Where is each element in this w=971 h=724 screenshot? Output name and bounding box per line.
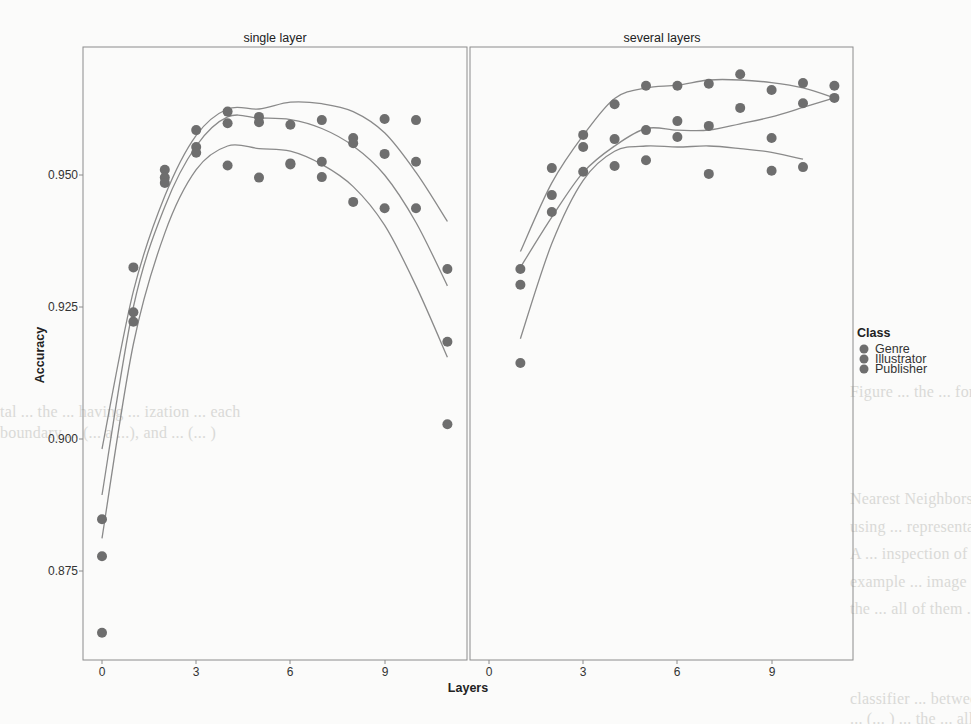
data-point — [704, 121, 714, 131]
data-point — [610, 99, 620, 109]
data-point — [223, 118, 233, 128]
points-single-layer — [97, 107, 452, 638]
panel-frame-several-layers — [470, 47, 853, 660]
data-point — [411, 157, 421, 167]
data-point — [641, 125, 651, 135]
data-point — [767, 85, 777, 95]
x-tick-label: 0 — [486, 665, 493, 679]
data-point — [578, 130, 588, 140]
data-point — [829, 93, 839, 103]
trend-line — [102, 102, 447, 449]
data-point — [610, 161, 620, 171]
data-point — [515, 358, 525, 368]
x-tick-label: 6 — [287, 665, 294, 679]
data-point — [380, 203, 390, 213]
data-point — [547, 163, 557, 173]
legend-marker-publisher — [860, 365, 869, 374]
data-point — [254, 173, 264, 183]
data-point — [798, 162, 808, 172]
data-point — [411, 203, 421, 213]
y-tick-label: 0.900 — [48, 432, 78, 446]
y-axis: 0.950 0.925 0.900 0.875 — [48, 168, 83, 578]
data-point — [317, 115, 327, 125]
data-point — [547, 207, 557, 217]
panel-frame-single-layer — [83, 47, 467, 660]
x-tick-label: 9 — [382, 665, 389, 679]
trend-line — [102, 115, 447, 495]
trend-line — [520, 146, 803, 339]
x-tick-label: 3 — [193, 665, 200, 679]
data-point — [767, 166, 777, 176]
faceted-scatter-chart: single layer several layers 0.950 0.925 … — [0, 0, 971, 724]
data-point — [767, 133, 777, 143]
data-point — [128, 317, 138, 327]
x-tick-label: 0 — [99, 665, 106, 679]
data-point — [829, 81, 839, 91]
data-point — [97, 514, 107, 524]
x-tick-label: 9 — [769, 665, 776, 679]
legend-label-publisher: Publisher — [875, 362, 927, 376]
data-point — [191, 125, 201, 135]
data-point — [128, 307, 138, 317]
x-tick-label: 6 — [674, 665, 681, 679]
data-point — [442, 337, 452, 347]
x-axis-several-layers: 0 3 6 9 — [486, 660, 776, 679]
x-axis-title: Layers — [448, 681, 488, 695]
x-tick-label: 3 — [580, 665, 587, 679]
data-point — [128, 262, 138, 272]
data-point — [442, 419, 452, 429]
data-point — [610, 134, 620, 144]
data-point — [348, 138, 358, 148]
data-point — [515, 264, 525, 274]
data-point — [578, 167, 588, 177]
data-point — [641, 155, 651, 165]
data-point — [223, 107, 233, 117]
legend-marker-illustrator — [860, 355, 869, 364]
y-tick-label: 0.875 — [48, 564, 78, 578]
data-point — [641, 81, 651, 91]
trend-lines-single-layer — [102, 102, 447, 539]
data-point — [578, 142, 588, 152]
data-point — [798, 98, 808, 108]
y-tick-label: 0.950 — [48, 168, 78, 182]
data-point — [547, 190, 557, 200]
data-point — [735, 103, 745, 113]
y-axis-title: Accuracy — [33, 327, 47, 383]
trend-line — [520, 79, 834, 251]
data-point — [442, 264, 452, 274]
data-point — [254, 117, 264, 127]
data-point — [317, 157, 327, 167]
data-point — [317, 172, 327, 182]
legend: Class Genre Illustrator Publisher — [857, 326, 927, 376]
data-point — [285, 120, 295, 130]
y-tick-label: 0.925 — [48, 300, 78, 314]
data-point — [191, 148, 201, 158]
data-point — [672, 132, 682, 142]
data-point — [411, 115, 421, 125]
data-point — [704, 79, 714, 89]
panel-title-single-layer: single layer — [243, 31, 306, 45]
legend-marker-genre — [860, 345, 869, 354]
data-point — [672, 81, 682, 91]
data-point — [735, 69, 745, 79]
data-point — [515, 280, 525, 290]
data-point — [160, 178, 170, 188]
data-point — [672, 116, 682, 126]
trend-line — [102, 145, 447, 539]
data-point — [285, 159, 295, 169]
data-point — [223, 161, 233, 171]
data-point — [798, 78, 808, 88]
points-several-layers — [515, 69, 839, 368]
data-point — [97, 551, 107, 561]
legend-title: Class — [857, 326, 890, 340]
data-point — [704, 169, 714, 179]
data-point — [97, 628, 107, 638]
panel-title-several-layers: several layers — [623, 31, 700, 45]
data-point — [348, 197, 358, 207]
x-axis-single-layer: 0 3 6 9 — [99, 660, 389, 679]
data-point — [380, 149, 390, 159]
data-point — [380, 114, 390, 124]
